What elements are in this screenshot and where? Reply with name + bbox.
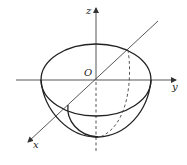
hidden-meridian xyxy=(100,50,130,137)
hemisphere-diagram: z y x O xyxy=(0,0,187,165)
front-meridian xyxy=(68,105,98,137)
x-axis-label: x xyxy=(33,139,39,150)
z-axis-label: z xyxy=(85,5,92,16)
origin-label: O xyxy=(84,67,92,78)
x-axis xyxy=(28,21,158,142)
y-axis-label: y xyxy=(171,81,178,92)
